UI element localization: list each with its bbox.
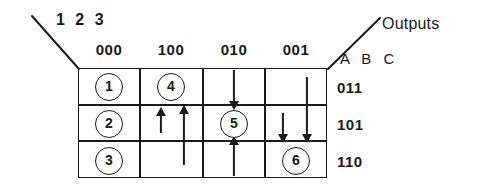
arrow-down-col001-short [277,113,289,143]
node-5[interactable]: 5 [220,110,248,138]
row-label-011: 011 [337,79,363,96]
figure-canvas: 1 2 3 Outputs A B C 000 100 010 001 011 … [0,0,482,193]
arrow-up-col100-short [155,107,167,133]
inputs-label: 1 2 3 [56,12,107,28]
node-2[interactable]: 2 [95,110,123,138]
outputs-label: Outputs [382,16,439,32]
arrowhead-down [278,134,288,143]
arrowhead-down [302,134,312,143]
column-header-001: 001 [265,41,327,58]
row-label-101: 101 [337,116,364,133]
arrow-down-col010 [228,70,240,110]
node-6[interactable]: 6 [282,147,310,175]
outputs-variables-label: A B C [340,51,398,66]
grid-vline-1 [139,69,141,177]
grid-vline-2 [202,69,204,177]
arrow-shaft [160,113,162,133]
arrow-shaft [306,77,308,137]
arrow-down-col001-long [301,77,313,143]
arrow-shaft [183,111,185,165]
column-header-010: 010 [203,41,265,58]
arrowhead-down [229,101,239,110]
grid-hline-1 [79,104,326,106]
arrow-shaft [233,70,235,104]
grid-vline-3 [264,69,266,177]
column-header-000: 000 [78,41,140,58]
column-header-100: 100 [140,41,202,58]
node-4[interactable]: 4 [157,73,185,101]
node-1[interactable]: 1 [95,73,123,101]
row-label-110: 110 [337,153,363,170]
arrow-shaft [233,142,235,176]
arrow-up-col010 [228,136,240,176]
node-3[interactable]: 3 [95,147,123,175]
arrow-up-col100-long [178,105,190,165]
